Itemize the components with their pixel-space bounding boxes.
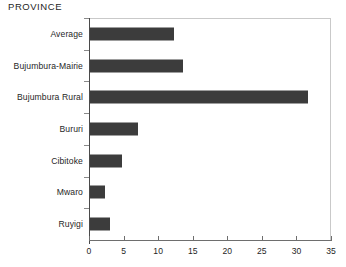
bar-row: Cibitoke (89, 145, 331, 177)
bar-row: Bujumbura-Mairie (89, 50, 331, 82)
category-label: Cibitoke (51, 156, 83, 166)
bar (90, 59, 183, 72)
x-axis-tick-label: 15 (188, 246, 198, 256)
x-axis-tick (124, 236, 125, 241)
bar-row: Bujumbura Rural (89, 81, 331, 113)
x-axis-tick-label: 35 (326, 246, 336, 256)
bar-row: Average (89, 18, 331, 50)
x-axis-tick (158, 236, 159, 241)
x-axis-tick-label: 25 (257, 246, 267, 256)
province-bar-chart: PROVINCE AverageBujumbura-MairieBujumbur… (0, 0, 346, 267)
category-label: Bururi (59, 124, 83, 134)
bar-rows: AverageBujumbura-MairieBujumbura RuralBu… (89, 18, 331, 240)
bar-row: Mwaro (89, 177, 331, 209)
bar (90, 218, 110, 231)
x-axis-tick (227, 236, 228, 241)
chart-title: PROVINCE (8, 1, 62, 13)
bar (90, 186, 105, 199)
bar (90, 122, 138, 135)
bar (90, 154, 122, 167)
y-axis-tick (84, 208, 89, 209)
category-label: Mwaro (57, 187, 83, 197)
bar (90, 91, 308, 104)
x-axis-tick-label: 20 (223, 246, 233, 256)
category-label: Bujumbura Rural (17, 92, 83, 102)
x-axis-tick-label: 30 (292, 246, 302, 256)
bar-row: Ruyigi (89, 208, 331, 240)
x-axis-tick (193, 236, 194, 241)
x-axis-tick (262, 236, 263, 241)
y-axis-tick (84, 145, 89, 146)
y-axis-tick (84, 81, 89, 82)
x-axis-tick (89, 236, 90, 241)
y-axis-tick (84, 113, 89, 114)
category-label: Ruyigi (59, 219, 83, 229)
y-axis-tick (84, 18, 89, 19)
plot-area: AverageBujumbura-MairieBujumbura RuralBu… (89, 18, 331, 240)
x-axis-tick (331, 236, 332, 241)
bar (90, 27, 174, 40)
x-axis-tick-label: 10 (153, 246, 163, 256)
x-axis-tick (296, 236, 297, 241)
x-axis-line (89, 240, 331, 241)
y-axis-tick (84, 177, 89, 178)
y-axis-tick (84, 50, 89, 51)
x-axis-tick-label: 0 (87, 246, 92, 256)
x-axis-tick-label: 5 (121, 246, 126, 256)
category-label: Bujumbura-Mairie (14, 61, 83, 71)
bar-row: Bururi (89, 113, 331, 145)
category-label: Average (50, 29, 83, 39)
x-axis: 05101520253035 (89, 240, 331, 267)
